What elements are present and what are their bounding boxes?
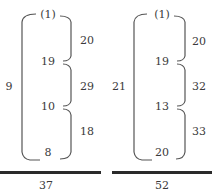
total-label: 52 (155, 180, 169, 192)
side-label: 9 (6, 81, 13, 93)
total-divider (0, 171, 101, 174)
total-divider (112, 171, 212, 174)
brace-label: 20 (80, 35, 94, 47)
node-label: 20 (155, 147, 169, 159)
node-label: 8 (45, 147, 52, 159)
node-label: (1) (154, 9, 170, 21)
node-label: 19 (41, 56, 55, 68)
bracket-lines (106, 0, 212, 195)
side-label: 21 (112, 81, 126, 93)
brace-label: 20 (192, 36, 206, 48)
node-label: 10 (41, 101, 55, 113)
brace-label: 32 (192, 81, 206, 93)
node-label: 13 (155, 101, 169, 113)
diagram-left: 9 (1) 19 10 8 20 29 18 37 (0, 0, 106, 195)
diagram-right: 21 (1) 19 13 20 20 32 33 52 (106, 0, 212, 195)
node-label: (1) (40, 9, 56, 21)
brace-label: 33 (192, 126, 206, 138)
node-label: 19 (155, 56, 169, 68)
bracket-lines (0, 0, 106, 195)
brace-label: 29 (80, 81, 94, 93)
total-label: 37 (39, 180, 53, 192)
brace-label: 18 (80, 126, 94, 138)
